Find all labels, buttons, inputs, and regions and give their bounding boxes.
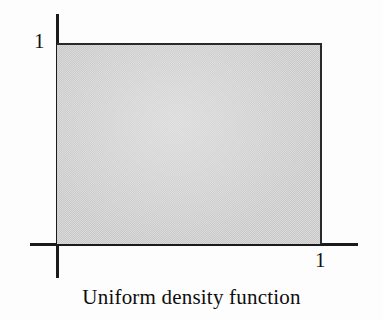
y-axis-tick-label-1: 1 [34,31,45,52]
uniform-density-area [57,43,322,244]
x-axis-tick-label-1: 1 [315,250,326,271]
figure-caption: Uniform density function [0,284,383,310]
uniform-density-figure: 1 1 Uniform density function [0,0,383,320]
